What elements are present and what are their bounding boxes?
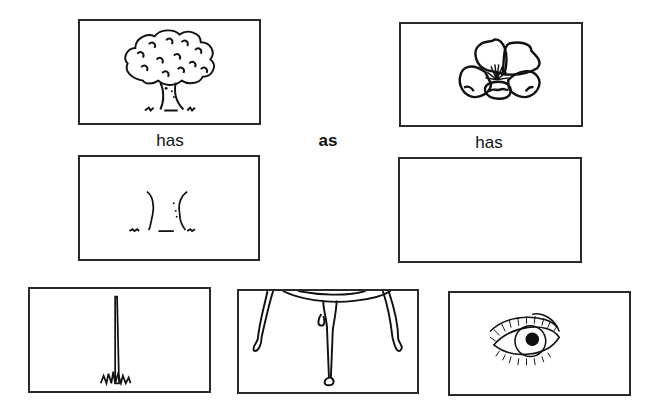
- eye-icon: [450, 293, 629, 394]
- analogy-left-label: has: [140, 132, 200, 149]
- tree-icon: [80, 21, 259, 123]
- analogy-right-label: has: [459, 134, 519, 151]
- choice-eye[interactable]: [448, 291, 631, 396]
- choice-table-legs[interactable]: [237, 289, 419, 394]
- panel-tree-trunk: [78, 155, 260, 261]
- tree-trunk-icon: [80, 157, 258, 259]
- panel-flower: [399, 22, 583, 127]
- table-legs-icon: [239, 291, 417, 392]
- choice-stem[interactable]: [28, 287, 211, 393]
- analogy-connector: as: [298, 132, 358, 149]
- answer-box[interactable]: [398, 157, 582, 263]
- flower-icon: [401, 24, 581, 125]
- panel-tree: [78, 19, 261, 125]
- stem-icon: [30, 289, 209, 391]
